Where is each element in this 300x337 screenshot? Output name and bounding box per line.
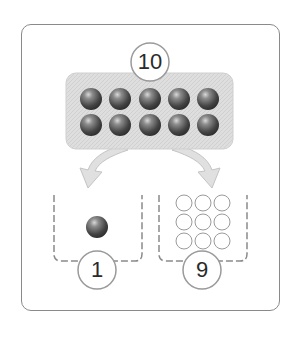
- arrow-left-icon: [80, 146, 128, 188]
- part-right-value: 9: [183, 251, 221, 289]
- arrow-right-icon: [172, 146, 220, 188]
- single-ball: [86, 216, 108, 238]
- nine-empty-circles: [176, 195, 230, 249]
- total-value: 10: [131, 43, 169, 81]
- part-left-value: 1: [78, 251, 116, 289]
- split-arrows: [80, 146, 220, 188]
- ten-ball-tray: [66, 73, 233, 149]
